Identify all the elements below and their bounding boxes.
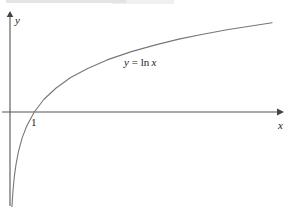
y-axis-arrowhead [7, 11, 14, 17]
x-intercept-tick-label: 1 [31, 117, 37, 128]
y-axis-label: y [15, 15, 20, 26]
curve-equation-arg: x [152, 56, 157, 68]
curve-equation-func: ln [141, 56, 150, 68]
x-axis-arrowhead [277, 109, 284, 116]
ln-function-graph [0, 0, 292, 207]
x-axis-label: x [278, 120, 283, 131]
curve-equation-equals: = [131, 56, 138, 68]
curve-equation-label: y = ln x [124, 57, 156, 68]
ln-curve [11, 23, 272, 207]
